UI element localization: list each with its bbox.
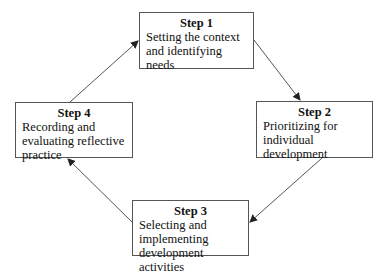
step-2-title: Step 2 xyxy=(263,105,366,119)
arrow-step1-to-step2 xyxy=(254,40,300,100)
step-3-title: Step 3 xyxy=(139,204,242,218)
arrow-step3-to-step4 xyxy=(68,159,132,222)
step-3-box: Step 3 Selecting and implementing develo… xyxy=(132,200,249,256)
step-3-text: Selecting and implementing development a… xyxy=(139,218,242,274)
arrow-step4-to-step1 xyxy=(70,41,138,102)
step-1-text: Setting the context and identifying need… xyxy=(146,30,247,72)
step-1-box: Step 1 Setting the context and identifyi… xyxy=(139,12,254,69)
step-4-text: Recording and evaluating reflective prac… xyxy=(22,120,126,162)
arrow-step2-to-step3 xyxy=(250,158,322,222)
step-2-box: Step 2 Prioritizing for individual devel… xyxy=(256,101,373,158)
step-4-box: Step 4 Recording and evaluating reflecti… xyxy=(15,102,133,158)
step-2-text: Prioritizing for individual development xyxy=(263,119,366,161)
step-1-title: Step 1 xyxy=(146,16,247,30)
step-4-title: Step 4 xyxy=(22,106,126,120)
